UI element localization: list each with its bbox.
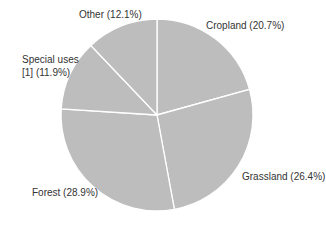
label-grassland: Grassland (26.4%) xyxy=(242,170,325,183)
label-other: Other (12.1%) xyxy=(79,8,142,21)
label-forest: Forest (28.9%) xyxy=(32,186,98,199)
label-special-uses-line2: [1] (11.9%) xyxy=(22,66,70,79)
pie-chart: Other (12.1%) Cropland (20.7%) Special u… xyxy=(0,0,326,225)
label-cropland: Cropland (20.7%) xyxy=(206,19,284,32)
label-special-uses-line1: Special uses xyxy=(22,53,79,66)
